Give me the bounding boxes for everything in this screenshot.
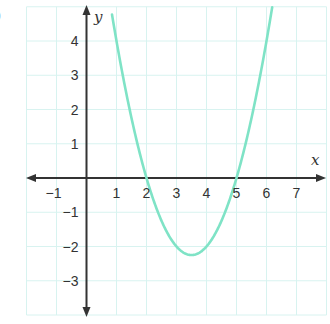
x-tick-label: 6 [263, 185, 271, 201]
y-axis-label: y [93, 8, 103, 26]
y-tick-label: −2 [63, 239, 79, 255]
x-tick-label: 5 [233, 185, 241, 201]
grid-lines [27, 7, 327, 315]
y-tick-label: −3 [63, 273, 79, 289]
parabola-curve [112, 7, 272, 255]
parabola-graph: −112345674321−1−2−3 x y [0, 0, 330, 324]
x-tick-label: −1 [46, 185, 62, 201]
x-axis-right-arrow-icon [316, 174, 326, 182]
y-tick-label: 1 [71, 136, 79, 152]
x-tick-label: 3 [173, 185, 181, 201]
x-axis-label: x [311, 151, 320, 169]
y-tick-label: −1 [63, 204, 79, 220]
x-tick-label: 1 [113, 185, 121, 201]
x-axis-left-arrow-icon [26, 174, 36, 182]
y-tick-label: 2 [71, 102, 79, 118]
x-tick-label: 4 [203, 185, 211, 201]
tick-labels: −112345674321−1−2−3 [46, 33, 301, 289]
y-tick-label: 3 [71, 67, 79, 83]
x-tick-label: 7 [293, 185, 301, 201]
y-tick-label: 4 [71, 33, 79, 49]
curve-path [112, 7, 272, 255]
x-tick-label: 2 [143, 185, 151, 201]
